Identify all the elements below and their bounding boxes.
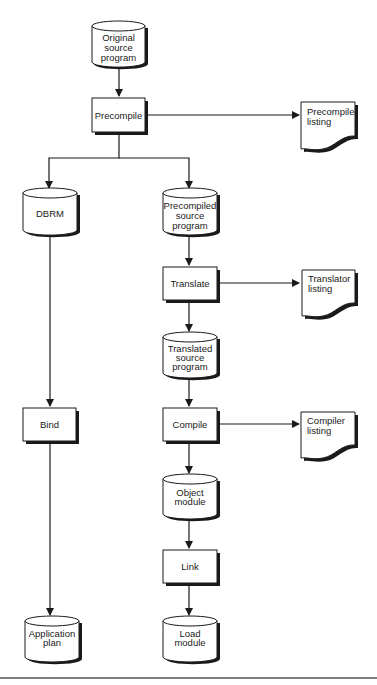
cylinder-dbrm: DBRM: [23, 188, 80, 237]
process-compile: Compile: [163, 408, 220, 444]
cylinder-original-source-program: Original source program: [92, 21, 148, 69]
label: Translate: [170, 278, 209, 289]
label: DBRM: [36, 208, 64, 219]
arrow-precompile-to-precompiled: [119, 158, 189, 188]
label: listing: [307, 116, 331, 127]
cylinder-load-module: Load module: [163, 616, 220, 664]
document-translator-listing: Translator listing: [302, 270, 358, 320]
label: Bind: [40, 419, 59, 430]
process-bind: Bind: [23, 408, 79, 444]
document-precompiler-listing: Precompiler listing: [301, 102, 358, 153]
label: listing: [308, 283, 332, 294]
process-link: Link: [163, 550, 220, 586]
label: program: [172, 361, 207, 372]
label: Compile: [173, 419, 208, 430]
cylinder-object-module: Object module: [163, 474, 220, 521]
cylinder-precompiled-source-program: Precompiled source program: [163, 188, 220, 237]
label: module: [174, 637, 205, 648]
label: program: [101, 52, 136, 63]
cylinder-application-plan: Application plan: [25, 616, 82, 664]
process-translate: Translate: [163, 267, 220, 303]
label: listing: [307, 425, 331, 436]
label: Link: [181, 561, 199, 572]
label: Precompile: [95, 110, 143, 121]
document-compiler-listing: Compiler listing: [301, 412, 358, 462]
process-precompile: Precompile: [92, 98, 148, 135]
arrow-precompile-to-dbrm: [49, 133, 119, 188]
flowchart: Original source program Precompile Preco…: [0, 0, 377, 685]
label: plan: [43, 637, 61, 648]
cylinder-translated-source-program: Translated source program: [163, 332, 220, 380]
label: module: [174, 496, 205, 507]
label: program: [172, 220, 207, 231]
